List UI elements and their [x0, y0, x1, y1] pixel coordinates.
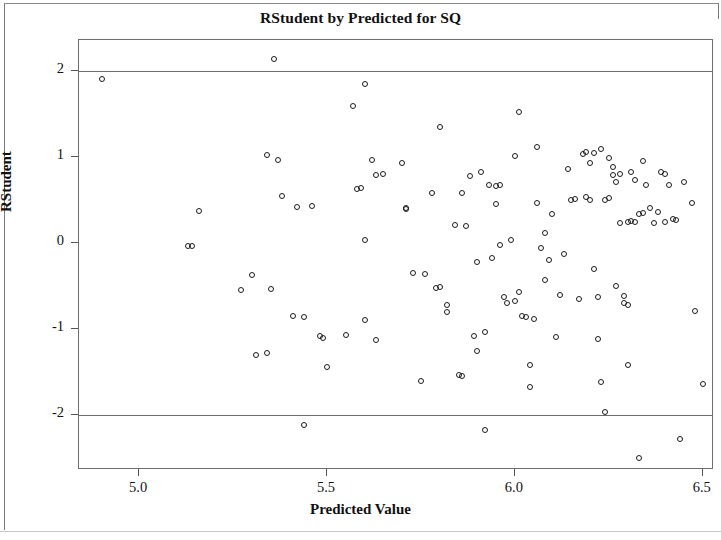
scatter-point	[290, 313, 296, 319]
scatter-point	[403, 205, 409, 211]
x-tick-mark	[702, 469, 703, 476]
scatter-point	[463, 223, 469, 229]
scatter-point	[358, 185, 364, 191]
scatter-point	[501, 294, 507, 300]
scatter-point	[444, 302, 450, 308]
y-tick-label: -1	[30, 318, 64, 335]
scatter-point	[531, 316, 537, 322]
scatter-point	[700, 381, 706, 387]
scatter-point	[602, 409, 608, 415]
scatter-point	[482, 427, 488, 433]
scatter-point	[343, 332, 349, 338]
figure-panel: RStudent by Predicted for SQ RStudent Pr…	[0, 0, 721, 540]
scatter-point	[264, 152, 270, 158]
scatter-point	[189, 243, 195, 249]
scatter-point	[249, 272, 255, 278]
y-tick-label: 2	[30, 60, 64, 77]
scatter-point	[534, 200, 540, 206]
scatter-point	[655, 209, 661, 215]
scatter-point	[516, 109, 522, 115]
scatter-point	[692, 308, 698, 314]
scatter-point	[268, 286, 274, 292]
scatter-point	[534, 144, 540, 150]
scatter-point	[613, 283, 619, 289]
scatter-point	[294, 204, 300, 210]
x-tick-label: 6.5	[677, 479, 721, 496]
x-axis-label: Predicted Value	[0, 501, 721, 518]
scatter-point	[587, 197, 593, 203]
scatter-point	[253, 352, 259, 358]
scatter-point	[362, 81, 368, 87]
scatter-point	[350, 103, 356, 109]
y-tick-mark	[71, 328, 78, 329]
scatter-point	[542, 230, 548, 236]
scatter-point	[651, 220, 657, 226]
scatter-point	[362, 237, 368, 243]
scatter-point	[628, 218, 634, 224]
x-tick-mark	[138, 469, 139, 476]
reference-line-y-2	[79, 71, 712, 72]
scatter-point	[647, 205, 653, 211]
scatter-point	[452, 222, 458, 228]
scatter-point	[471, 333, 477, 339]
scatter-point	[380, 171, 386, 177]
y-tick-label: 0	[30, 232, 64, 249]
scatter-point	[474, 259, 480, 265]
page-border-bottom	[0, 531, 721, 532]
scatter-point	[553, 334, 559, 340]
scatter-point	[662, 171, 668, 177]
scatter-point	[598, 146, 604, 152]
scatter-point	[309, 203, 315, 209]
scatter-point	[546, 257, 552, 263]
scatter-point	[621, 293, 627, 299]
scatter-point	[549, 211, 555, 217]
scatter-point	[512, 298, 518, 304]
scatter-point	[497, 242, 503, 248]
scatter-point	[508, 237, 514, 243]
scatter-point	[373, 337, 379, 343]
scatter-point	[557, 292, 563, 298]
scatter-point	[196, 208, 202, 214]
scatter-point	[516, 289, 522, 295]
scatter-point	[486, 182, 492, 188]
scatter-point	[373, 172, 379, 178]
x-tick-mark	[326, 469, 327, 476]
scatter-point	[565, 166, 571, 172]
scatter-point	[437, 124, 443, 130]
scatter-point	[610, 172, 616, 178]
scatter-point	[459, 190, 465, 196]
scatter-point	[399, 160, 405, 166]
scatter-point	[418, 378, 424, 384]
scatter-point	[512, 153, 518, 159]
scatter-point	[324, 364, 330, 370]
scatter-point	[504, 300, 510, 306]
scatter-point	[625, 362, 631, 368]
x-tick-mark	[514, 469, 515, 476]
scatter-point	[598, 379, 604, 385]
scatter-point	[591, 150, 597, 156]
page-border-top	[4, 3, 719, 4]
scatter-point	[527, 362, 533, 368]
scatter-point	[429, 190, 435, 196]
scatter-point	[422, 271, 428, 277]
x-tick-label: 5.0	[113, 479, 163, 496]
scatter-point	[689, 200, 695, 206]
y-tick-mark	[71, 414, 78, 415]
scatter-point	[681, 179, 687, 185]
scatter-point	[673, 217, 679, 223]
scatter-point	[643, 182, 649, 188]
scatter-point	[467, 173, 473, 179]
scatter-point	[238, 287, 244, 293]
scatter-point	[264, 350, 270, 356]
x-tick-label: 6.0	[489, 479, 539, 496]
scatter-point	[527, 384, 533, 390]
scatter-point	[275, 157, 281, 163]
scatter-point	[301, 422, 307, 428]
scatter-point	[369, 157, 375, 163]
x-tick-label: 5.5	[301, 479, 351, 496]
scatter-point	[474, 348, 480, 354]
scatter-point	[583, 149, 589, 155]
y-tick-mark	[71, 242, 78, 243]
scatter-point	[662, 219, 668, 225]
scatter-point	[538, 245, 544, 251]
